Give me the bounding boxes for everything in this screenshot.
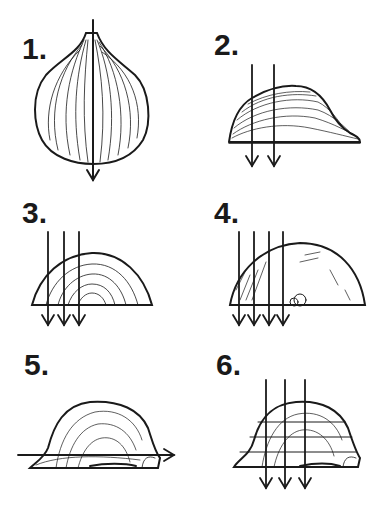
cut-arrows-6-icon <box>260 380 311 488</box>
half-onion-side-illustration <box>229 86 360 143</box>
cut-arrow-right-icon <box>18 449 174 461</box>
cut-arrows-2-icon <box>246 65 280 166</box>
half-onion-dice-illustration <box>234 402 360 467</box>
cut-arrows-3-icon <box>42 232 85 325</box>
onion-cross-section-4-illustration <box>230 243 365 306</box>
half-onion-horizontal-cut-illustration <box>30 402 160 468</box>
onion-cross-section-3-illustration <box>32 253 152 305</box>
cut-arrow-down-icon <box>87 20 99 180</box>
whole-onion-illustration <box>35 33 148 164</box>
